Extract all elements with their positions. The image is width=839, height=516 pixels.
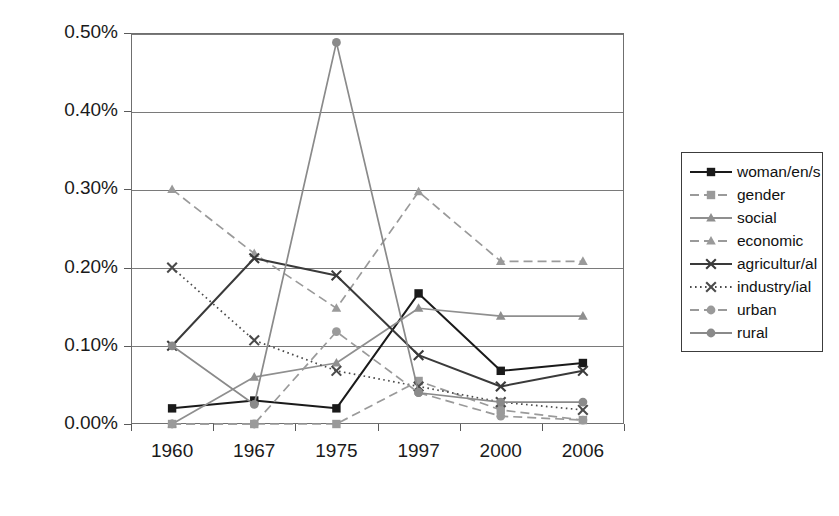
- data-point-marker-circle: [414, 388, 423, 397]
- legend-label: economic: [737, 232, 803, 250]
- data-point-marker-circle: [168, 341, 177, 350]
- data-point-marker-x: [167, 263, 177, 273]
- y-axis-tick-label: 0.50%: [32, 21, 118, 43]
- y-axis-tick-mark: [124, 189, 131, 190]
- data-point-marker-circle: [332, 327, 341, 336]
- x-axis-tick-mark: [295, 424, 296, 431]
- data-point-marker-square: [497, 367, 505, 375]
- series-industry-ial: [167, 263, 587, 415]
- y-axis-tick-label: 0.00%: [32, 412, 118, 434]
- y-axis-tick-mark: [124, 268, 131, 269]
- y-axis-tick-mark: [124, 111, 131, 112]
- data-point-marker-circle: [250, 400, 259, 409]
- legend-item-industry-ial[interactable]: industry/ial: [688, 275, 816, 298]
- legend-item-social[interactable]: social: [688, 206, 816, 229]
- legend-swatch-x-icon: [688, 278, 734, 296]
- legend-item-rural[interactable]: rural: [688, 321, 816, 344]
- x-axis-tick-label: 1967: [209, 440, 299, 462]
- data-point-marker-x: [414, 350, 424, 360]
- data-point-marker-circle: [332, 38, 341, 47]
- legend-label: agricultur/al: [737, 255, 817, 273]
- chart-legend: woman/en/sgendersocialeconomicagricultur…: [681, 152, 823, 352]
- x-axis-tick-label: 1960: [127, 440, 217, 462]
- y-axis-tick-label: 0.40%: [32, 99, 118, 121]
- data-point-marker-square: [168, 404, 176, 412]
- y-axis-tick-label: 0.30%: [32, 177, 118, 199]
- x-axis-tick-mark: [460, 424, 461, 431]
- x-axis-tick-mark: [213, 424, 214, 431]
- chart-root: 0.00%0.10%0.20%0.30%0.40%0.50% 196019671…: [0, 0, 839, 516]
- legend-item-gender[interactable]: gender: [688, 183, 816, 206]
- series-line: [172, 293, 583, 408]
- legend-swatch-square-icon: [688, 163, 734, 181]
- data-point-marker-circle: [168, 420, 177, 429]
- data-point-marker-x: [578, 405, 588, 415]
- y-axis-tick-label: 0.20%: [32, 256, 118, 278]
- data-point-marker-circle: [707, 305, 716, 314]
- x-axis-tick-label: 2000: [456, 440, 546, 462]
- series-economic: [167, 184, 587, 311]
- y-axis-tick-mark: [124, 424, 131, 425]
- series-woman-en-s: [168, 289, 587, 412]
- data-point-marker-x: [706, 282, 716, 292]
- x-axis-tick-mark: [624, 424, 625, 431]
- y-axis-tick-mark: [124, 33, 131, 34]
- x-axis-tick-mark: [542, 424, 543, 431]
- legend-swatch-triangle-icon: [688, 232, 734, 250]
- legend-swatch-circle-icon: [688, 324, 734, 342]
- x-axis-tick-mark: [378, 424, 379, 431]
- data-point-marker-circle: [496, 412, 505, 421]
- x-axis-tick-label: 1975: [291, 440, 381, 462]
- series-line: [172, 258, 583, 386]
- legend-label: social: [737, 209, 777, 227]
- legend-item-urban[interactable]: urban: [688, 298, 816, 321]
- legend-swatch-circle-icon: [688, 301, 734, 319]
- series-agricultur-al: [167, 253, 587, 391]
- legend-label: woman/en/s: [737, 163, 821, 181]
- y-axis-tick-label: 0.10%: [32, 334, 118, 356]
- x-axis-tick-label: 1997: [374, 440, 464, 462]
- data-point-marker-square: [707, 167, 715, 175]
- x-axis-tick-label: 2006: [538, 440, 628, 462]
- series-line: [172, 332, 583, 424]
- legend-swatch-x-icon: [688, 255, 734, 273]
- data-point-marker-square: [579, 359, 587, 367]
- legend-item-agricultur-al[interactable]: agricultur/al: [688, 252, 816, 275]
- data-point-marker-triangle: [332, 303, 342, 312]
- data-point-marker-triangle: [332, 358, 342, 367]
- data-point-marker-square: [707, 190, 715, 198]
- data-point-marker-square: [414, 289, 422, 297]
- legend-item-economic[interactable]: economic: [688, 229, 816, 252]
- data-point-marker-circle: [579, 416, 588, 425]
- data-point-marker-circle: [496, 398, 505, 407]
- legend-label: industry/ial: [737, 278, 811, 296]
- legend-item-woman-en-s[interactable]: woman/en/s: [688, 160, 816, 183]
- data-point-marker-circle: [250, 420, 259, 429]
- series-layer: [131, 33, 624, 424]
- legend-swatch-triangle-icon: [688, 209, 734, 227]
- series-line: [172, 308, 583, 424]
- legend-swatch-square-icon: [688, 186, 734, 204]
- data-point-marker-square: [332, 420, 340, 428]
- data-point-marker-square: [332, 404, 340, 412]
- series-rural: [168, 38, 588, 409]
- legend-label: rural: [737, 324, 768, 342]
- data-point-marker-triangle: [414, 187, 424, 196]
- data-point-marker-circle: [707, 328, 716, 337]
- y-axis-tick-mark: [124, 346, 131, 347]
- x-axis-tick-mark: [131, 424, 132, 431]
- data-point-marker-x: [249, 336, 259, 346]
- data-point-marker-triangle: [167, 184, 177, 193]
- data-point-marker-circle: [579, 398, 588, 407]
- data-point-marker-triangle: [414, 303, 424, 312]
- series-line: [172, 189, 583, 308]
- legend-label: gender: [737, 186, 785, 204]
- series-social: [167, 303, 587, 427]
- legend-label: urban: [737, 301, 777, 319]
